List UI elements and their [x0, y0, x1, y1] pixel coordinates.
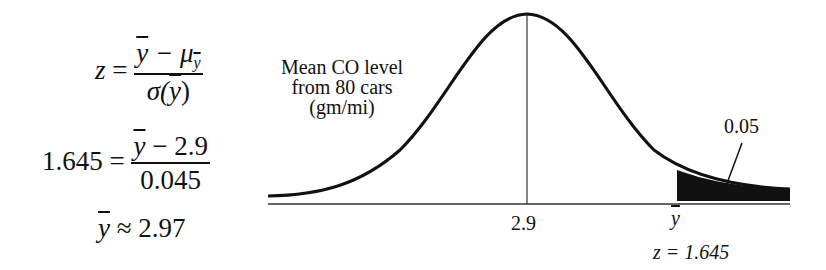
mu-subscript: y [194, 54, 201, 71]
mean-tick-label: 2.9 [511, 212, 536, 235]
diagram-title: Mean CO level from 80 cars (gm/mi) [272, 57, 412, 117]
minus-mu: − μ [148, 38, 193, 68]
close-paren: ) [181, 76, 190, 106]
y-bar: y [136, 38, 148, 68]
tail-area-label: 0.05 [724, 115, 759, 138]
tail-leader-line [726, 143, 742, 186]
sigma: σ( [147, 76, 169, 106]
eq1-lhs: z [95, 55, 106, 85]
title-line-3: (gm/mi) [272, 97, 412, 117]
shaded-tail [677, 170, 790, 201]
eq2-lhs: 1.645 [42, 146, 103, 176]
y-bar: y [98, 213, 110, 243]
z-value-text: z = 1.645 [653, 241, 729, 263]
title-line-1: Mean CO level [272, 57, 412, 77]
eq1-fraction: y − μy σ(y) [134, 40, 202, 105]
equation-substituted: 1.645 = y − 2.9 0.045 [42, 133, 210, 194]
eq1-equals: = [112, 55, 127, 85]
z-value-label: z = 1.645 [653, 241, 729, 264]
result-value: ≈ 2.97 [110, 213, 186, 243]
y-bar: y [133, 131, 145, 161]
equation-result: y ≈ 2.97 [98, 215, 186, 242]
minus-mean: − 2.9 [145, 131, 207, 161]
title-line-2: from 80 cars [272, 77, 412, 97]
equation-z-formula: z = y − μy σ(y) [95, 40, 203, 105]
std-error: 0.045 [131, 164, 209, 194]
y-bar: y [169, 76, 181, 106]
eq2-fraction: y − 2.9 0.045 [131, 133, 209, 194]
critical-value-label: y [671, 207, 680, 230]
eq2-equals: = [110, 146, 125, 176]
